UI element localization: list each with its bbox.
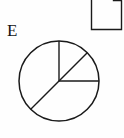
page-corner-fold [114,0,122,1]
figure-container: E [0,0,124,138]
figure-label-E: E [7,20,27,42]
page-body-outline [92,0,122,30]
page-fold-icon [92,0,122,30]
